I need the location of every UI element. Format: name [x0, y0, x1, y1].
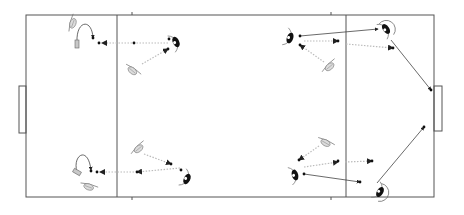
balls: [90, 35, 433, 184]
pass-arrow: [346, 44, 393, 48]
ball-marker: [90, 170, 93, 173]
ball-marker: [299, 35, 302, 38]
ball-marker: [298, 159, 301, 162]
defender-player-icon: [67, 14, 79, 33]
ball-marker: [168, 38, 171, 41]
pitch-canvas: [0, 0, 464, 215]
run-arrow: [300, 29, 378, 36]
cone-icon: [75, 40, 79, 48]
pitch-boundary: [26, 15, 434, 197]
attacker-player-icon: [371, 182, 392, 205]
ball-marker: [133, 42, 136, 45]
pitch: [19, 12, 442, 200]
ball-marker: [299, 44, 302, 47]
pass-arrow: [299, 146, 319, 160]
pass-arrow: [144, 154, 171, 164]
attacker-player-icon: [288, 165, 301, 185]
ball-marker: [170, 163, 173, 166]
runs: [300, 29, 431, 183]
ball-marker: [303, 173, 306, 176]
ball-marker: [337, 40, 340, 43]
ball-marker: [423, 126, 426, 129]
ball-marker: [430, 89, 433, 92]
defender-player-icon: [316, 136, 335, 150]
ball-marker: [98, 42, 101, 45]
ball-marker: [337, 160, 340, 163]
curved-run-arrow: [77, 24, 93, 42]
pass-arrow: [300, 45, 324, 62]
ball-marker: [136, 171, 139, 174]
attacker-player-icon: [168, 32, 183, 52]
pass-arrow: [304, 162, 338, 167]
run-arrow: [391, 40, 431, 90]
curved-run-arrow: [76, 155, 91, 172]
run-arrow: [304, 174, 360, 182]
defender-player-icon: [124, 62, 142, 78]
ball-marker: [96, 171, 99, 174]
run-arrow: [377, 127, 424, 183]
ball-marker: [392, 47, 395, 50]
ball-marker: [359, 181, 362, 184]
drill-diagram: [0, 0, 464, 215]
attacker-player-icon: [377, 16, 399, 39]
attacker-player-icon: [179, 169, 194, 189]
cone-icon: [73, 168, 82, 175]
passes: [100, 41, 393, 172]
ball-marker: [180, 169, 183, 172]
defender-player-icon: [79, 181, 98, 193]
pass-arrow: [345, 161, 372, 162]
pass-arrow: [142, 49, 168, 64]
ball-marker: [167, 48, 170, 51]
attacker-player-icon: [282, 28, 296, 48]
pass-arrow: [137, 168, 180, 172]
ball-marker: [92, 37, 95, 40]
ball-marker: [371, 160, 374, 163]
right-goal: [434, 86, 442, 131]
left-goal: [19, 86, 26, 133]
